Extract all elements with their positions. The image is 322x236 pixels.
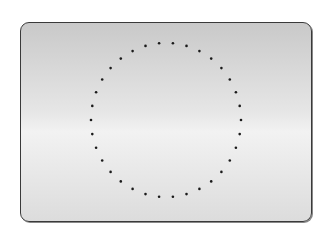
dot bbox=[210, 57, 213, 60]
dot bbox=[240, 119, 243, 122]
dot bbox=[144, 193, 147, 196]
dot bbox=[91, 105, 94, 108]
dot bbox=[120, 57, 123, 60]
dot bbox=[158, 42, 161, 45]
dot bbox=[229, 159, 232, 162]
dot bbox=[238, 105, 241, 108]
dot bbox=[120, 180, 123, 183]
dot bbox=[235, 147, 238, 150]
dot bbox=[185, 45, 188, 48]
dot bbox=[198, 50, 201, 53]
dot bbox=[95, 147, 98, 150]
dot bbox=[91, 133, 94, 136]
dot bbox=[90, 119, 93, 122]
dot bbox=[172, 42, 175, 45]
dot bbox=[131, 188, 134, 191]
dot bbox=[109, 67, 112, 70]
dot bbox=[235, 91, 238, 94]
dot bbox=[158, 195, 161, 198]
dot bbox=[229, 78, 232, 81]
dot bbox=[95, 91, 98, 94]
dot bbox=[172, 195, 175, 198]
dot bbox=[131, 50, 134, 53]
dot bbox=[210, 180, 213, 183]
dot bbox=[238, 133, 241, 136]
dot bbox=[220, 171, 223, 174]
dot bbox=[109, 171, 112, 174]
dot bbox=[198, 188, 201, 191]
dot bbox=[101, 78, 104, 81]
dot bbox=[101, 159, 104, 162]
dot bbox=[220, 67, 223, 70]
dot bbox=[185, 193, 188, 196]
dot bbox=[144, 45, 147, 48]
dotted-circle bbox=[0, 0, 322, 236]
